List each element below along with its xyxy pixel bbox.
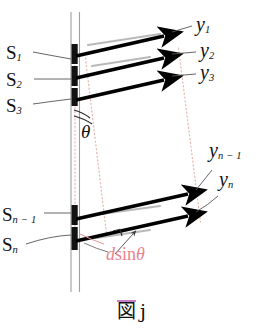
leader-y3 (172, 74, 196, 76)
slit-label-sn-minus-1: Sn − 1 (2, 205, 36, 226)
path-difference-theta: θ (136, 244, 145, 264)
caption-kanji: 図 (117, 300, 136, 322)
leader-y2 (172, 52, 196, 54)
grating-block-n (72, 227, 78, 250)
grating-bar-lower (72, 205, 78, 250)
ray-label-y1: y1 (196, 14, 210, 36)
leader-yn1 (196, 170, 212, 190)
slit-label-s1: S1 (6, 43, 22, 64)
grating-block-n1 (72, 205, 78, 225)
leader-s1 (33, 52, 71, 59)
leader-yn (196, 196, 218, 212)
ray-label-yn: yn (219, 169, 233, 191)
slit-label-s2: S2 (6, 70, 22, 91)
ray-label-y2: y2 (200, 40, 214, 62)
ray-label-y3: y3 (200, 62, 214, 84)
path-difference-sin: sin (115, 244, 136, 264)
slit-label-s3: S3 (6, 96, 22, 117)
grating-diagram (0, 0, 263, 328)
leader-s3 (33, 99, 71, 104)
angle-label-theta: θ (81, 122, 90, 141)
grating-block-2 (72, 66, 78, 86)
figure-container: S1 S2 S3 Sn − 1 Sn y1 y2 y3 yn − 1 yn θ … (0, 0, 263, 328)
ray-yn (76, 216, 188, 241)
ray-yn1 (76, 194, 188, 219)
leader-y1 (172, 26, 192, 32)
grating-block-3 (72, 88, 78, 106)
leader-sn (26, 235, 71, 244)
grating-bar-upper (72, 44, 78, 106)
figure-caption: 図j (0, 300, 263, 322)
path-difference-label: dsinθ (106, 245, 145, 263)
ray-label-yn-minus-1: yn − 1 (209, 140, 242, 162)
grating-block-1 (72, 44, 78, 64)
caption-label: j (140, 300, 146, 322)
path-difference-d: d (106, 244, 115, 264)
slit-label-sn: Sn (2, 235, 18, 256)
guide-wavefront-left (86, 58, 108, 238)
d-sin-leader-curve (84, 243, 108, 252)
